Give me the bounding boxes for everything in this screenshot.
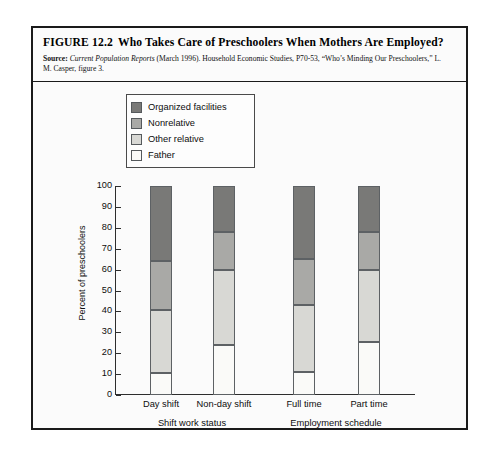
legend-label-other-relative: Other relative bbox=[148, 134, 204, 144]
bar-segment-organized-facilities[interactable] bbox=[150, 186, 172, 261]
y-axis-tick-0: 0 bbox=[75, 395, 121, 396]
legend-label-organized-facilities: Organized facilities bbox=[148, 102, 227, 112]
y-axis-tick-label: 20 bbox=[88, 347, 112, 357]
y-axis-tick-label: 90 bbox=[88, 201, 112, 211]
bar-segment-other-relative[interactable] bbox=[293, 305, 315, 372]
bar-segment-organized-facilities[interactable] bbox=[293, 186, 315, 259]
x-axis-label-day-shift: Day shift bbox=[143, 399, 179, 409]
figure-source-note: Source: Current Population Reports (Marc… bbox=[43, 54, 443, 74]
legend-item-nonrelative: Nonrelative bbox=[131, 115, 254, 131]
y-axis-tick-label: 0 bbox=[88, 389, 112, 399]
y-axis-title: Percent of preschoolers bbox=[77, 198, 87, 348]
bar-full-time[interactable] bbox=[293, 186, 315, 395]
bar-segment-nonrelative[interactable] bbox=[150, 261, 172, 310]
bar-day-shift[interactable] bbox=[150, 186, 172, 395]
y-axis-tick-40: 40 bbox=[75, 311, 121, 312]
x-axis-label-part-time: Part time bbox=[350, 399, 387, 409]
chart-plot-region: Organized facilities Nonrelative Other r… bbox=[33, 82, 466, 428]
x-axis-label-non-day-shift: Non-day shift bbox=[197, 399, 252, 409]
legend-item-father: Father bbox=[131, 147, 254, 163]
chart-axes: 0102030405060708090100 Day shiftNon-day … bbox=[115, 186, 415, 395]
y-axis-tick-70: 70 bbox=[75, 249, 121, 250]
chart-legend: Organized facilities Nonrelative Other r… bbox=[126, 94, 255, 168]
y-axis-tick-label: 70 bbox=[88, 243, 112, 253]
legend-swatch-organized-facilities bbox=[131, 102, 142, 113]
y-axis-tick-20: 20 bbox=[75, 353, 121, 354]
y-axis-tick-label: 80 bbox=[88, 222, 112, 232]
bar-segment-other-relative[interactable] bbox=[358, 270, 380, 342]
y-axis-tick-label: 40 bbox=[88, 305, 112, 315]
bar-segment-other-relative[interactable] bbox=[150, 310, 172, 373]
y-axis-tick-50: 50 bbox=[75, 291, 121, 292]
x-axis-label-full-time: Full time bbox=[286, 399, 321, 409]
bar-segment-organized-facilities[interactable] bbox=[358, 186, 380, 232]
bar-non-day-shift[interactable] bbox=[213, 186, 235, 395]
bar-segment-father[interactable] bbox=[213, 345, 235, 395]
source-label: Source: bbox=[43, 54, 68, 63]
group-label-employment-schedule: Employment schedule bbox=[290, 418, 381, 428]
y-axis-tick-label: 50 bbox=[88, 285, 112, 295]
legend-item-other-relative: Other relative bbox=[131, 131, 254, 147]
bar-segment-organized-facilities[interactable] bbox=[213, 186, 235, 232]
legend-item-organized-facilities: Organized facilities bbox=[131, 99, 254, 115]
group-label-shift-work-status: Shift work status bbox=[158, 418, 226, 428]
figure-caption-block: FIGURE 12.2Who Takes Care of Preschooler… bbox=[33, 28, 466, 82]
bar-part-time[interactable] bbox=[358, 186, 380, 395]
legend-swatch-nonrelative bbox=[131, 118, 142, 129]
figure-title: FIGURE 12.2Who Takes Care of Preschooler… bbox=[43, 36, 456, 49]
bar-segment-other-relative[interactable] bbox=[213, 270, 235, 345]
y-axis-tick-mark bbox=[116, 395, 121, 396]
y-axis-tick-80: 80 bbox=[75, 228, 121, 229]
source-publication-title: Current Population Reports bbox=[70, 54, 155, 63]
y-axis-tick-label: 30 bbox=[88, 326, 112, 336]
legend-swatch-father bbox=[131, 150, 142, 161]
y-axis-tick-30: 30 bbox=[75, 332, 121, 333]
y-axis-tick-label: 100 bbox=[88, 180, 112, 190]
bar-segment-father[interactable] bbox=[293, 372, 315, 395]
bar-segment-father[interactable] bbox=[150, 373, 172, 395]
y-axis-tick-60: 60 bbox=[75, 270, 121, 271]
legend-swatch-other-relative bbox=[131, 134, 142, 145]
bar-segment-nonrelative[interactable] bbox=[293, 259, 315, 305]
y-axis-tick-90: 90 bbox=[75, 207, 121, 208]
legend-label-nonrelative: Nonrelative bbox=[148, 118, 195, 128]
y-axis-tick-label: 10 bbox=[88, 368, 112, 378]
bar-segment-nonrelative[interactable] bbox=[358, 232, 380, 270]
y-axis-tick-10: 10 bbox=[75, 374, 121, 375]
figure-number: FIGURE 12.2 bbox=[43, 36, 113, 49]
y-axis-tick-label: 60 bbox=[88, 264, 112, 274]
legend-label-father: Father bbox=[148, 150, 175, 160]
y-axis-tick-100: 100 bbox=[75, 186, 121, 187]
bar-segment-nonrelative[interactable] bbox=[213, 232, 235, 270]
bars-layer bbox=[116, 186, 415, 395]
bar-segment-father[interactable] bbox=[358, 342, 380, 395]
figure-title-text: Who Takes Care of Preschoolers When Moth… bbox=[118, 36, 444, 49]
figure-frame: FIGURE 12.2Who Takes Care of Preschooler… bbox=[31, 26, 468, 430]
